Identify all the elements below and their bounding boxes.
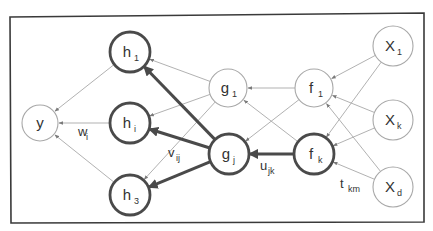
node-X1: X1: [373, 26, 413, 66]
edge-label-text: t: [340, 176, 344, 191]
edge-label-text: v: [168, 145, 175, 160]
node-label: X: [385, 178, 395, 195]
node-label: y: [36, 114, 44, 131]
node-label: h: [123, 186, 131, 203]
node-label: h: [123, 114, 131, 131]
node-hi: hi: [110, 103, 150, 143]
node-subscript: 1: [397, 47, 402, 57]
node-subscript: 1: [232, 89, 237, 99]
edge-label-subscript: jk: [267, 166, 275, 176]
node-subscript: 3: [134, 196, 139, 206]
node-label: X: [385, 111, 395, 128]
node-fk: fk: [294, 134, 334, 174]
edge-label-subscript: ij: [176, 153, 180, 163]
edge-label-subscript: km: [348, 184, 360, 194]
edge-label-subscript: i: [86, 132, 88, 142]
node-subscript: 1: [318, 89, 323, 99]
node-subscript: k: [318, 155, 323, 165]
node-label: g: [221, 79, 229, 96]
node-label: h: [123, 43, 131, 60]
diagram-frame: [10, 13, 424, 223]
node-f1: f1: [295, 69, 333, 107]
edge-h1-to-y: [55, 64, 114, 111]
node-subscript: j: [232, 155, 235, 165]
edge-f1-to-gj: [246, 100, 299, 141]
node-label: X: [385, 37, 395, 54]
node-circle: [295, 69, 333, 107]
node-h3: h3: [110, 175, 150, 215]
edge-X1-to-f1: [332, 55, 376, 78]
edge-gj-to-h3: [149, 162, 210, 187]
node-Xd: Xd: [373, 167, 413, 207]
node-circle: [294, 134, 334, 174]
edge-X1-to-fk: [326, 62, 381, 137]
neural-network-diagram: yh1hih3g1gjf1fkX1XkXd wivijujktkm: [0, 0, 433, 231]
node-h1: h1: [110, 32, 150, 72]
node-Xk: Xk: [373, 100, 413, 140]
node-subscript: d: [397, 188, 402, 198]
edge-label-vij: vij: [168, 145, 180, 163]
edge-g1-to-h3: [144, 102, 215, 180]
node-g1: g1: [209, 69, 247, 107]
edge-Xk-to-f1: [333, 96, 375, 113]
node-subscript: k: [397, 121, 402, 131]
node-gj: gj: [209, 134, 249, 174]
node-subscript: i: [134, 124, 136, 134]
node-label: g: [222, 145, 230, 162]
edge-Xk-to-fk: [333, 128, 374, 146]
edge-gj-to-hi: [150, 129, 210, 148]
edge-label-tkm: tkm: [340, 176, 360, 194]
edge-Xd-to-f1: [326, 104, 380, 172]
edge-h3-to-y: [55, 135, 115, 183]
edge-label-ujk: ujk: [260, 158, 275, 176]
edge-g1-to-h1: [150, 59, 210, 81]
edge-label-text: u: [260, 158, 267, 173]
node-subscript: 1: [134, 53, 139, 63]
edge-gj-to-h1: [145, 67, 215, 140]
edge-label-wi: wi: [77, 124, 88, 142]
node-y: y: [22, 105, 58, 141]
